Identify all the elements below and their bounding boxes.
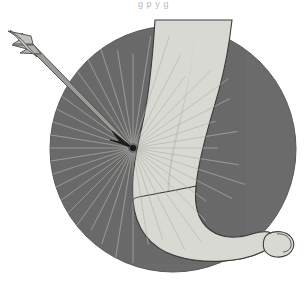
big-toe-shape — [263, 232, 293, 257]
illustration-canvas: g p y g — [0, 0, 307, 287]
arrow-heel-figure — [0, 0, 307, 287]
impact-point-marker — [130, 145, 136, 151]
